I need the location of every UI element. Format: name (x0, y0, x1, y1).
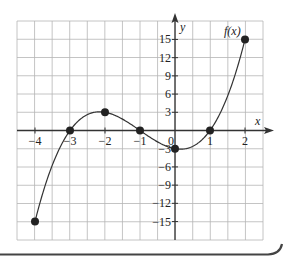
data-point (206, 127, 214, 135)
y-tick-label: 12 (159, 51, 171, 65)
y-tick-label: −6 (158, 160, 171, 174)
axes (17, 13, 274, 240)
y-tick-label: 3 (165, 105, 171, 119)
y-axis-label: y (179, 20, 186, 34)
data-point (171, 145, 179, 153)
y-tick-label: −12 (152, 196, 171, 210)
y-tick-label: −15 (152, 215, 171, 229)
x-axis-label: x (254, 114, 261, 128)
data-point (101, 108, 109, 116)
function-label: f(x) (224, 24, 241, 38)
x-tick-label: 1 (207, 134, 213, 148)
data-point (31, 218, 39, 226)
x-tick-label: −1 (134, 134, 147, 148)
x-tick-label: −3 (64, 134, 77, 148)
y-tick-label: 9 (165, 69, 171, 83)
data-point (241, 35, 249, 43)
x-tick-label: −4 (29, 134, 42, 148)
function-graph: −4−3−2−1012 1512963−3−6−9−12−15 x y f(x) (0, 0, 284, 263)
y-tick-label: 15 (159, 32, 171, 46)
data-point (136, 127, 144, 135)
y-tick-label: 6 (165, 87, 171, 101)
x-tick-label: 2 (242, 134, 248, 148)
x-tick-label: −2 (99, 134, 112, 148)
y-tick-label: −9 (158, 178, 171, 192)
data-point (66, 127, 74, 135)
frame-border (0, 244, 282, 255)
